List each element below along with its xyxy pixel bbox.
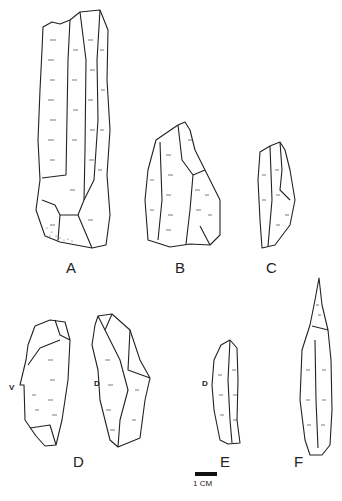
scale-bar	[195, 472, 217, 476]
label-d-ventral: V	[9, 383, 14, 392]
label-b: B	[175, 259, 185, 276]
label-d-dorsal: D	[94, 379, 100, 388]
artifact-b-drawing	[145, 122, 220, 247]
label-d: D	[73, 453, 84, 470]
scale-label: 1 CM	[193, 479, 212, 488]
artifact-drawings	[0, 0, 342, 501]
label-e-dorsal: D	[202, 379, 208, 388]
artifact-a-drawing	[36, 10, 110, 248]
label-c: C	[266, 259, 277, 276]
artifact-d-drawing	[20, 314, 150, 447]
artifact-e-drawing	[212, 340, 240, 444]
artifact-c-drawing	[258, 142, 295, 248]
label-f: F	[294, 453, 303, 470]
artifact-f-drawing	[300, 278, 332, 455]
label-a: A	[66, 259, 76, 276]
label-e: E	[220, 453, 230, 470]
